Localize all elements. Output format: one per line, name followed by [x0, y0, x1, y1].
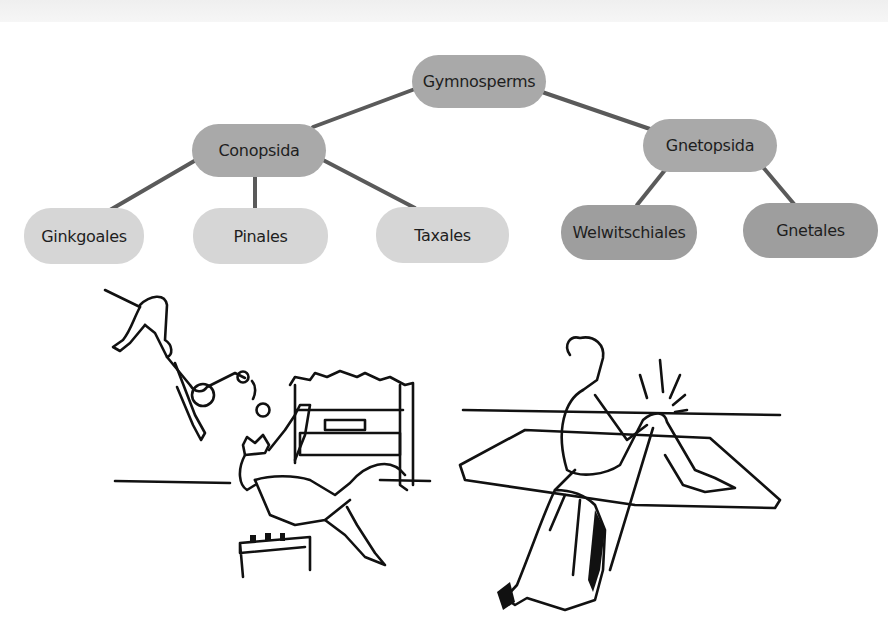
node-gnetopsida: Gnetopsida: [643, 119, 777, 172]
link-conopsida-ginkgoales: [110, 160, 196, 210]
link-gnetopsida-welwitschiales: [637, 170, 665, 205]
injured-knee-illustration: [455, 330, 790, 620]
node-gymnosperms: Gymnosperms: [412, 55, 546, 108]
acrobat-and-pianist-illustration: [95, 285, 435, 580]
node-pinales: Pinales: [193, 208, 328, 264]
node-label: Ginkgoales: [41, 227, 127, 246]
node-label: Gymnosperms: [423, 72, 536, 91]
link-gymnosperms-gnetopsida: [542, 92, 650, 129]
node-label: Gnetales: [776, 221, 845, 240]
node-conopsida: Conopsida: [192, 124, 326, 177]
node-taxales: Taxales: [376, 207, 509, 263]
link-conopsida-taxales: [323, 160, 415, 208]
link-gymnosperms-conopsida: [313, 89, 415, 127]
node-label: Conopsida: [218, 141, 299, 160]
node-label: Taxales: [414, 226, 471, 245]
node-gnetales: Gnetales: [743, 203, 878, 258]
link-gnetopsida-gnetales: [762, 166, 794, 204]
node-label: Pinales: [233, 227, 287, 246]
node-ginkgoales: Ginkgoales: [24, 208, 144, 264]
node-welwitschiales: Welwitschiales: [561, 205, 697, 260]
node-label: Gnetopsida: [666, 136, 754, 155]
node-label: Welwitschiales: [573, 223, 686, 242]
